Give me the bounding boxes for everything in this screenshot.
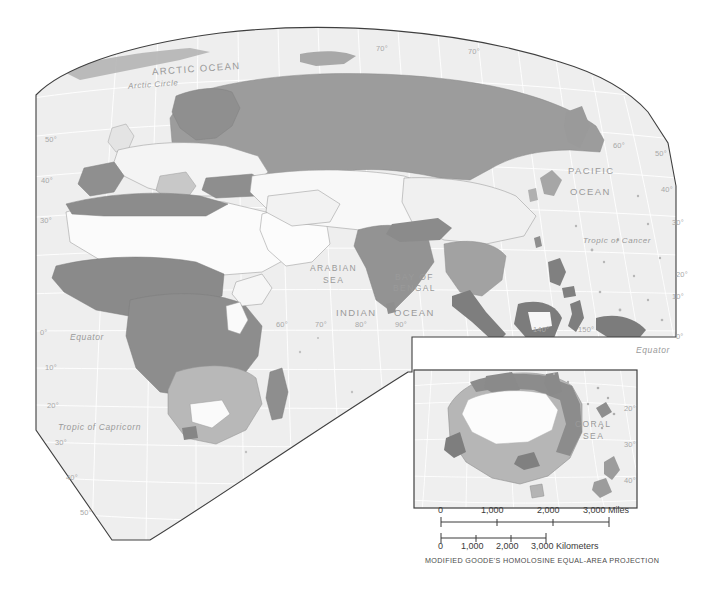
inset-latitude-tick: 20° (624, 404, 636, 413)
latitude-tick: 30° (40, 216, 52, 225)
landmass-philippines-south (562, 286, 576, 298)
latitude-tick: 40° (66, 473, 78, 482)
latitude-tick: 10° (672, 292, 684, 301)
longitude-tick: 140° (533, 325, 549, 334)
latitude-tick: 30° (672, 218, 684, 227)
latitude-tick: 70° (468, 47, 480, 56)
inset-latitude-tick: 40° (624, 476, 636, 485)
latitude-tick: 0° (40, 328, 48, 337)
latitude-tick: 0° (676, 332, 684, 341)
world-map-graphic (0, 0, 723, 591)
longitude-tick: 70° (315, 320, 327, 329)
latitude-tick: 20° (47, 401, 59, 410)
latitude-tick: 50° (45, 135, 57, 144)
scale-miles-3000: 3,000 Miles (583, 505, 629, 515)
scale-miles-1000: 1,000 (481, 505, 504, 515)
longitude-tick: 80° (355, 320, 367, 329)
latitude-tick: 40° (661, 185, 673, 194)
scale-miles-0: 0 (438, 505, 443, 515)
landmass-lesotho (182, 426, 198, 440)
latitude-tick: 50° (655, 149, 667, 158)
latitude-tick: 60° (613, 141, 625, 150)
longitude-tick: 60° (276, 320, 288, 329)
inset-latitude-tick: 30° (624, 440, 636, 449)
scale-miles-2000: 2,000 (537, 505, 560, 515)
scale-km-2000: 2,000 (496, 541, 519, 551)
scale-km-1000: 1,000 (461, 541, 484, 551)
landmass-tasmania (530, 484, 544, 498)
projection-caption: MODIFIED GOODE'S HOMOLOSINE EQUAL-AREA P… (425, 556, 659, 565)
latitude-tick: 70° (376, 44, 388, 53)
latitude-tick: 50° (80, 508, 92, 517)
australia-inset-map (410, 366, 648, 512)
longitude-tick: 90° (395, 320, 407, 329)
map-screenshot: ARCTIC OCEANArctic CirclePACIFICOCEANTro… (0, 0, 723, 591)
latitude-tick: 20° (676, 270, 688, 279)
landmass-java (500, 340, 560, 352)
scale-km-0: 0 (438, 541, 443, 551)
scale-km-3000: 3,000 Kilometers (531, 541, 599, 551)
latitude-tick: 40° (41, 176, 53, 185)
latitude-tick: 10° (45, 363, 57, 372)
latitude-tick: 30° (55, 438, 67, 447)
scale-bar-miles (441, 517, 609, 527)
longitude-tick: 150° (578, 325, 594, 334)
